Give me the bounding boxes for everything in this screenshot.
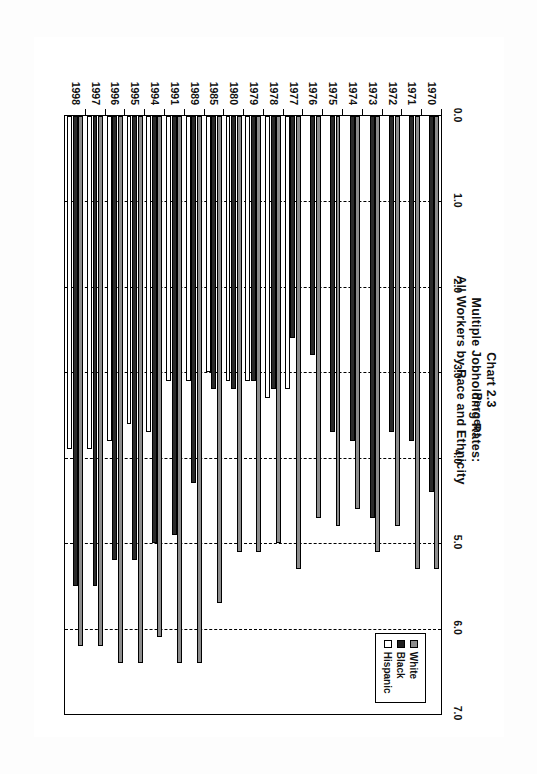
y-axis-category-label: 1998	[69, 82, 81, 105]
bar-white-1979	[256, 116, 261, 552]
bar-white-1977	[295, 116, 300, 569]
bar-black-1978	[270, 116, 275, 389]
y-axis-category-label: 1989	[188, 82, 200, 105]
bar-hispanic-1991	[166, 116, 171, 381]
chart-title: Chart 2.3	[483, 37, 498, 723]
bar-black-1974	[349, 116, 354, 441]
bar-black-1971	[409, 116, 414, 441]
y-axis-category-label: 1996	[109, 82, 121, 105]
bar-hispanic-1977	[284, 116, 289, 389]
y-axis-category-label: 1971	[406, 82, 418, 105]
bar-hispanic-1998	[67, 116, 72, 449]
y-axis-category-label: 1973	[366, 82, 378, 105]
bar-black-1991	[171, 116, 176, 535]
bar-black-1989	[191, 116, 196, 483]
bar-white-1995	[137, 116, 142, 663]
x-axis-title: Percent	[472, 115, 484, 715]
x-axis-tick-label: 4.0	[452, 449, 464, 464]
bar-white-1994	[157, 116, 162, 637]
bar-hispanic-1994	[146, 116, 151, 432]
y-axis-category-label: 1995	[129, 82, 141, 105]
chart-figure: Chart 2.3 Multiple Jobholding Rates: All…	[34, 37, 504, 737]
y-axis-category-label: 1970	[426, 82, 438, 105]
bar-white-1973	[375, 116, 380, 552]
y-axis-category-labels: 1970197119721973197419751976197719781979…	[64, 37, 442, 115]
bar-white-1978	[276, 116, 281, 543]
bar-hispanic-1978	[265, 116, 270, 398]
bar-black-1985	[211, 116, 216, 389]
legend-swatch-icon	[396, 640, 404, 648]
y-axis-category-label: 1994	[149, 82, 161, 105]
y-axis-category-label: 1980	[228, 82, 240, 105]
legend-label: Black	[394, 652, 407, 679]
bar-white-1998	[78, 116, 83, 646]
legend-item-white: White	[407, 640, 420, 694]
x-axis-tick-label: 6.0	[452, 620, 464, 635]
bar-hispanic-1996	[106, 116, 111, 441]
bar-black-1975	[330, 116, 335, 432]
bar-hispanic-1979	[245, 116, 250, 381]
legend-label: Hispanic	[381, 652, 394, 694]
bar-black-1995	[132, 116, 137, 560]
y-axis-category-label: 1977	[287, 82, 299, 105]
bar-white-1975	[335, 116, 340, 526]
bar-black-1980	[231, 116, 236, 389]
legend-swatch-icon	[409, 640, 417, 648]
bar-hispanic-1997	[86, 116, 91, 449]
plot-area: WhiteBlackHispanic	[64, 115, 442, 715]
bar-white-1996	[117, 116, 122, 663]
bar-white-1974	[355, 116, 360, 509]
bar-white-1970	[434, 116, 439, 569]
bar-white-1991	[177, 116, 182, 663]
x-axis-tick-label: 3.0	[452, 364, 464, 379]
bar-white-1989	[197, 116, 202, 663]
bar-black-1998	[72, 116, 77, 586]
bar-black-1996	[112, 116, 117, 560]
page-background: Chart 2.3 Multiple Jobholding Rates: All…	[0, 0, 537, 774]
x-axis-tick-label: 0.0	[452, 108, 464, 123]
bar-black-1977	[290, 116, 295, 338]
x-axis-tick-label: 1.0	[452, 193, 464, 208]
y-axis-category-label: 1985	[208, 82, 220, 105]
bar-black-1976	[310, 116, 315, 355]
legend-item-hispanic: Hispanic	[381, 640, 394, 694]
y-axis-category-label: 1978	[267, 82, 279, 105]
bar-white-1985	[216, 116, 221, 603]
y-axis-category-label: 1997	[89, 82, 101, 105]
x-axis-tick-label: 7.0	[452, 706, 464, 721]
bars-layer	[65, 116, 441, 714]
bar-hispanic-1995	[126, 116, 131, 424]
bar-black-1972	[389, 116, 394, 432]
bar-hispanic-1989	[185, 116, 190, 381]
bar-black-1979	[250, 116, 255, 381]
legend-item-black: Black	[394, 640, 407, 694]
y-axis-category-label: 1979	[248, 82, 260, 105]
bar-white-1980	[236, 116, 241, 552]
bar-white-1971	[414, 116, 419, 569]
chart-legend: WhiteBlackHispanic	[375, 633, 426, 703]
bar-hispanic-1985	[205, 116, 210, 372]
bar-white-1972	[394, 116, 399, 526]
y-axis-category-label: 1976	[307, 82, 319, 105]
y-axis-category-label: 1975	[327, 82, 339, 105]
bar-white-1997	[98, 116, 103, 646]
x-axis-tick-label: 5.0	[452, 535, 464, 550]
bar-black-1994	[151, 116, 156, 543]
legend-swatch-icon	[383, 640, 391, 648]
bar-hispanic-1980	[225, 116, 230, 381]
bar-black-1997	[92, 116, 97, 586]
bar-black-1973	[369, 116, 374, 518]
y-axis-category-label: 1974	[346, 82, 358, 105]
bar-white-1976	[315, 116, 320, 518]
bar-black-1970	[428, 116, 433, 492]
y-axis-category-label: 1991	[168, 82, 180, 105]
x-axis-tick-label: 2.0	[452, 279, 464, 294]
y-axis-category-label: 1972	[386, 82, 398, 105]
legend-label: White	[407, 652, 420, 679]
rotated-chart-wrapper: Chart 2.3 Multiple Jobholding Rates: All…	[34, 37, 504, 737]
